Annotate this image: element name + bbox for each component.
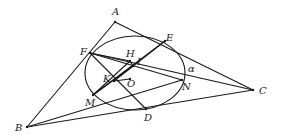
point-D [145,108,147,110]
point-A [114,21,116,23]
point-C [252,89,254,91]
label-E: E [165,32,174,43]
label-M: M [84,97,96,108]
segment-BC [27,90,253,127]
label-A: A [111,6,119,17]
point-I [132,65,134,67]
point-B [26,126,28,128]
labels: ABCDEFHIKOMNα [14,6,267,133]
point-K [113,80,115,82]
label-alpha: α [188,63,195,74]
label-C: C [259,85,267,96]
ellipse-alpha [85,36,185,110]
label-N: N [181,81,192,92]
point-M [92,94,94,96]
label-D: D [143,112,152,123]
label-I: I [136,56,142,67]
points [26,21,254,128]
point-F [89,52,91,54]
diagram-canvas: ABCDEFHIKOMNα [0,0,282,140]
segments [27,22,253,127]
segment-AB [27,22,115,127]
geometry-diagram: ABCDEFHIKOMNα [0,0,282,140]
label-F: F [79,46,88,57]
label-H: H [125,48,135,59]
label-O: O [127,78,135,89]
point-H [129,60,131,62]
segment-MH [93,61,130,95]
segment-FC [90,53,253,90]
label-K: K [102,73,111,84]
label-B: B [14,122,22,133]
